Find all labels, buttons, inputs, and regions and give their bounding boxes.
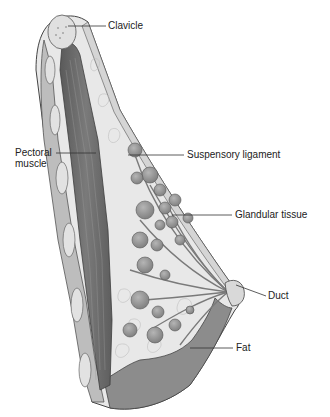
label-duct: Duct: [268, 290, 289, 301]
clavicle-bone: [48, 15, 76, 49]
label-clavicle: Clavicle: [108, 20, 143, 31]
label-pectoral-muscle: Pectoral muscle: [15, 147, 52, 169]
label-fat: Fat: [236, 342, 250, 353]
label-pectoral-muscle-text: Pectoral muscle: [15, 147, 52, 169]
label-suspensory-ligament: Suspensory ligament: [187, 149, 280, 160]
label-glandular-tissue: Glandular tissue: [235, 209, 307, 220]
